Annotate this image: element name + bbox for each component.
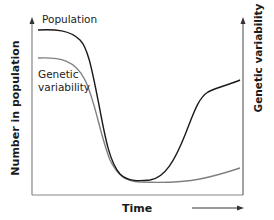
population-curve: [38, 30, 240, 181]
right-y-axis: [241, 17, 246, 195]
population-series-label: Population: [42, 13, 97, 25]
right-axis-arrow-icon: [241, 17, 246, 24]
left-axis-arrow-icon: [30, 17, 35, 24]
genetic-variability-series-label-line2: variability: [38, 81, 90, 93]
chart-plot: [0, 0, 274, 220]
left-y-axis: [30, 17, 35, 195]
x-axis-label: Time: [122, 202, 152, 215]
time-arrow: [192, 206, 244, 211]
y-axis-right-label: Genetic variability: [252, 4, 264, 113]
genetic-variability-series-label-line1: Genetic: [38, 68, 79, 80]
y-axis-left-label: Number in population: [9, 40, 22, 175]
time-arrow-icon: [237, 206, 244, 211]
